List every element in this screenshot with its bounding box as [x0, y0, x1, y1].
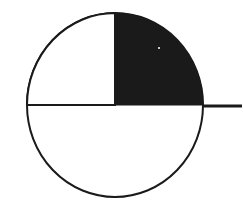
pie-chart-figure	[0, 0, 243, 214]
pie-slice-a[interactable]	[115, 13, 203, 105]
pie-slice-b[interactable]	[27, 13, 115, 105]
scan-artifact-speck	[158, 47, 160, 49]
pie-chart-canvas	[0, 0, 243, 214]
